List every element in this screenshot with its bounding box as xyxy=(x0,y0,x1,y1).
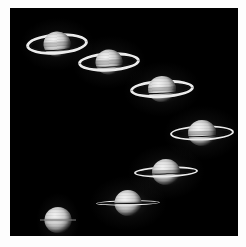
saturn-instance xyxy=(40,204,76,236)
photo-frame xyxy=(0,0,246,247)
saturn-body-group xyxy=(129,65,195,112)
sky-plate xyxy=(10,8,238,236)
saturn-instance xyxy=(96,183,160,223)
ring-front-half xyxy=(130,87,195,112)
saturn-instance xyxy=(130,67,194,111)
saturn-instance xyxy=(170,112,234,154)
saturn-body-group xyxy=(169,111,234,155)
ring-front-half xyxy=(96,202,160,223)
ring-edge-on-line-front xyxy=(40,220,76,221)
saturn-body-group xyxy=(40,204,76,236)
saturn-body-group xyxy=(96,182,161,223)
